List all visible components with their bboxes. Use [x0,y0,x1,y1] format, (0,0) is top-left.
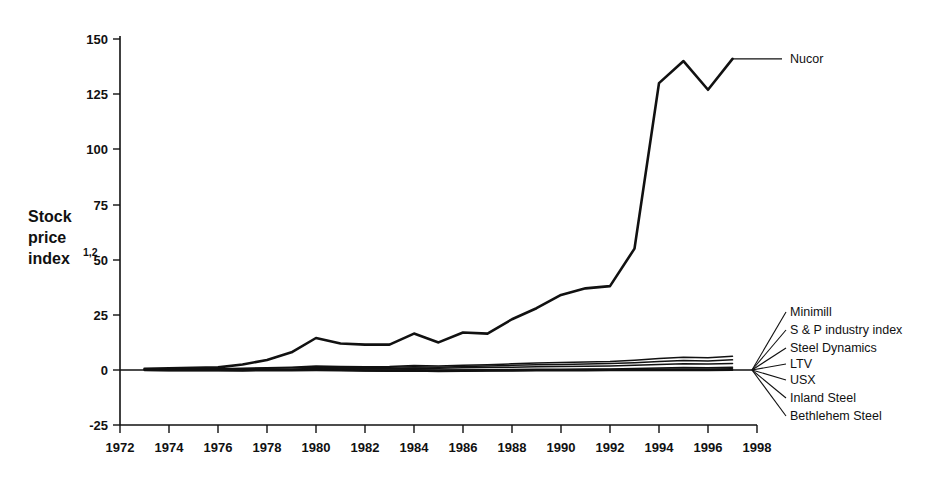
x-tick-label-1980: 1980 [302,440,331,455]
x-tick-label-1984: 1984 [400,440,430,455]
y-tick-label-75: 75 [94,198,108,213]
y-tick-label-0: 0 [101,363,108,378]
legend-label-inland-steel: Inland Steel [790,391,856,405]
x-tick-label-1982: 1982 [351,440,380,455]
y-tick-label-150: 150 [86,32,108,47]
y-tick-label-100: 100 [86,142,108,157]
y-axis-title-line-1: Stock [28,208,72,225]
x-tick-label-1996: 1996 [694,440,723,455]
x-tick-label-1978: 1978 [253,440,282,455]
x-tick-label-1972: 1972 [106,440,135,455]
legend-label-usx: USX [790,373,816,387]
x-tick-label-1990: 1990 [547,440,576,455]
x-tick-label-1986: 1986 [449,440,478,455]
legend-label-s-p-industry-index: S & P industry index [790,323,903,337]
x-tick-label-1974: 1974 [155,440,185,455]
x-tick-label-1998: 1998 [743,440,772,455]
y-tick-label-50: 50 [94,253,108,268]
x-tick-label-1976: 1976 [204,440,233,455]
x-tick-label-1992: 1992 [596,440,625,455]
x-tick-label-1994: 1994 [645,440,675,455]
legend-label-minimill: Minimill [790,305,832,319]
chart-canvas: Stock price index 1,2 150 125 100 75 [0,0,934,488]
y-tick-label-125: 125 [86,87,108,102]
y-axis-title-line-2: price [28,229,66,246]
stock-price-index-chart: Stock price index 1,2 150 125 100 75 [0,0,934,488]
legend-label-ltv: LTV [790,357,813,371]
y-tick-label-neg25: -25 [89,418,108,433]
legend-label-nucor: Nucor [790,52,823,66]
y-axis-title-line-3: index [28,250,70,267]
x-tick-label-1988: 1988 [498,440,527,455]
legend-label-bethlehem-steel: Bethlehem Steel [790,409,882,423]
y-tick-label-25: 25 [94,308,108,323]
legend-label-steel-dynamics: Steel Dynamics [790,341,877,355]
